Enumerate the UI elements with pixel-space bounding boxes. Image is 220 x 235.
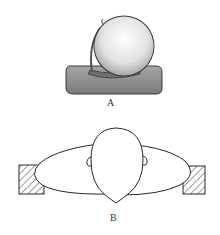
figure-b: B xyxy=(0,115,220,235)
figure-label-a: A xyxy=(107,98,114,108)
figure-a: A xyxy=(0,0,220,115)
figure-label-b: B xyxy=(110,213,117,223)
